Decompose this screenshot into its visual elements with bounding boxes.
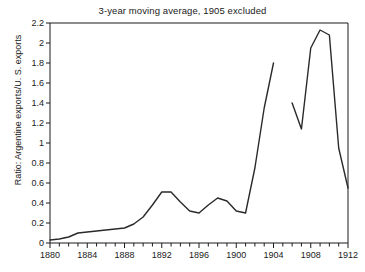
y-tick-label: 0.4 xyxy=(31,198,44,208)
y-tick-label: 2.2 xyxy=(31,18,44,28)
y-tick-label: 1.2 xyxy=(31,118,44,128)
y-axis-ticks: 00.20.40.60.811.21.41.61.822.2 xyxy=(31,18,50,248)
x-tick-label: 1908 xyxy=(301,250,321,260)
x-tick-label: 1884 xyxy=(77,250,97,260)
axis-frame xyxy=(50,23,348,243)
y-tick-label: 1.8 xyxy=(31,58,44,68)
chart-figure: 3-year moving average, 1905 excluded Rat… xyxy=(0,0,365,272)
y-tick-label: 2 xyxy=(39,38,44,48)
x-tick-label: 1892 xyxy=(152,250,172,260)
y-tick-label: 0.6 xyxy=(31,178,44,188)
x-tick-label: 1912 xyxy=(338,250,358,260)
x-tick-label: 1896 xyxy=(189,250,209,260)
y-tick-label: 1 xyxy=(39,138,44,148)
y-tick-label: 0.2 xyxy=(31,218,44,228)
y-tick-label: 1.6 xyxy=(31,78,44,88)
y-tick-label: 1.4 xyxy=(31,98,44,108)
x-tick-label: 1888 xyxy=(114,250,134,260)
series-line xyxy=(292,30,348,188)
x-tick-label: 1880 xyxy=(40,250,60,260)
plot-area: 00.20.40.60.811.21.41.61.822.2 188018841… xyxy=(0,0,365,272)
data-series xyxy=(50,30,348,240)
axes xyxy=(50,23,348,243)
y-tick-label: 0.8 xyxy=(31,158,44,168)
x-axis-ticks: 188018841888189218961900190419081912 xyxy=(40,243,358,260)
x-tick-label: 1904 xyxy=(263,250,283,260)
y-tick-label: 0 xyxy=(39,238,44,248)
series-line xyxy=(50,63,274,240)
x-tick-label: 1900 xyxy=(226,250,246,260)
